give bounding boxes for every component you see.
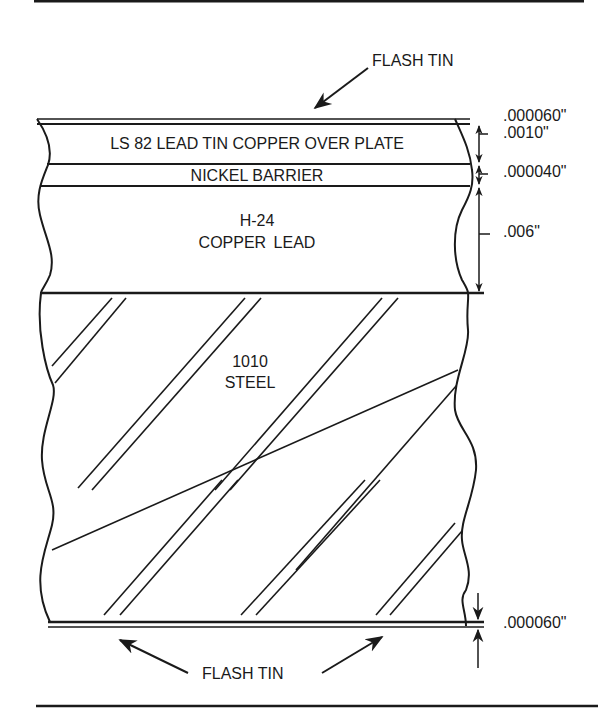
bottom-flash-tin-label: FLASH TIN — [202, 665, 284, 683]
nickel-barrier-label: NICKEL BARRIER — [191, 167, 324, 185]
nickel-barrier-thickness: .000040" — [503, 163, 567, 181]
dimension-lines — [478, 126, 490, 668]
right-break-line — [455, 119, 476, 626]
overplate-layer-label: LS 82 LEAD TIN COPPER OVER PLATE — [110, 135, 404, 153]
steel-grade-label: 1010 — [232, 353, 268, 371]
bottom-flash-tin-thickness: .000060" — [503, 614, 567, 632]
steel-hatching — [52, 298, 470, 615]
top-flash-tin-thickness: .000060" — [503, 107, 567, 125]
copper-lead-grade-label: H-24 — [240, 212, 275, 230]
overplate-thickness: .0010" — [503, 124, 549, 142]
steel-label: STEEL — [225, 374, 276, 392]
copper-lead-label: COPPER LEAD — [199, 234, 316, 252]
left-break-line — [37, 119, 54, 622]
top-flash-tin-label: FLASH TIN — [372, 52, 454, 70]
copper-lead-thickness: .006" — [503, 223, 540, 241]
